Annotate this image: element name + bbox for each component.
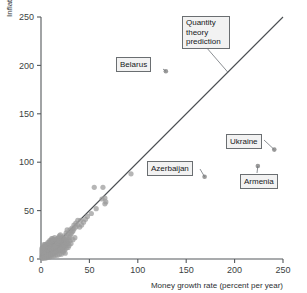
x-axis-title: Money growth rate (percent per year): [151, 281, 283, 290]
leader-azerbaijan: [200, 169, 205, 177]
x-tick-label: 100: [130, 265, 145, 275]
chart-figure: 050100150200250050100150200250Money grow…: [0, 0, 307, 293]
data-point: [57, 238, 62, 243]
data-point: [92, 185, 97, 190]
x-tick-label: 150: [179, 265, 194, 275]
data-point: [66, 237, 71, 242]
leader-quantity-theory: [206, 47, 228, 72]
leader-ukraine: [264, 140, 274, 150]
callout-ukraine: Ukraine: [226, 134, 262, 149]
data-point: [41, 242, 46, 247]
data-point: [79, 223, 84, 228]
callout-quantity-theory-prediction: Quantity theory prediction: [182, 16, 230, 49]
callout-leader-lines: [163, 47, 274, 177]
x-tick-label: 200: [227, 265, 242, 275]
data-point: [75, 218, 80, 223]
data-point: [100, 185, 105, 190]
x-tick-label: 250: [275, 265, 290, 275]
y-tick-label: 0: [29, 254, 34, 264]
y-axis-title: Inflation rate (percent per year): [5, 0, 14, 17]
x-tick-label: 0: [38, 265, 43, 275]
data-point: [94, 206, 99, 211]
x-tick-label: 50: [84, 265, 94, 275]
y-tick-label: 50: [24, 206, 34, 216]
callout-azerbaijan: Azerbaijan: [147, 161, 193, 176]
data-point: [128, 171, 133, 176]
callout-armenia: Armenia: [240, 174, 278, 189]
data-point: [102, 201, 107, 206]
data-point: [49, 236, 54, 241]
y-tick-label: 200: [19, 61, 34, 71]
callout-belarus: Belarus: [116, 57, 151, 72]
y-tick-label: 100: [19, 157, 34, 167]
y-tick-label: 150: [19, 109, 34, 119]
y-tick-label: 250: [19, 12, 34, 22]
